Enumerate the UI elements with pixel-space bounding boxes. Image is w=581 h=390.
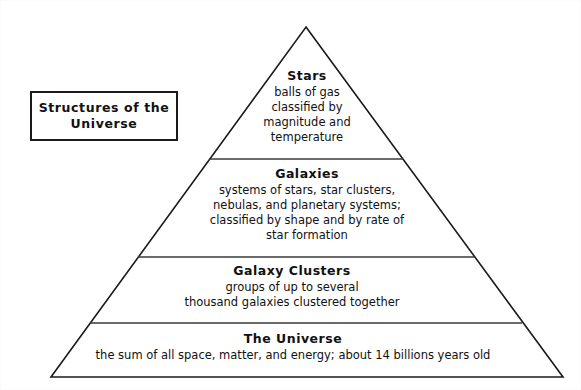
level-body-galaxy-clusters: groups of up to several thousand galaxie… [121, 280, 463, 311]
diagram-page: Structures of the Universe Stars balls o… [0, 0, 581, 390]
pyramid-level-galaxies: Galaxies systems of stars, star clusters… [161, 166, 453, 244]
title-box-label: Structures of the Universe [32, 100, 176, 131]
title-box: Structures of the Universe [30, 91, 178, 141]
pyramid-level-galaxy-clusters: Galaxy Clusters groups of up to several … [121, 263, 463, 310]
level-body-stars: balls of gas classified by magnitude and… [229, 85, 385, 146]
pyramid-level-stars: Stars balls of gas classified by magnitu… [229, 68, 385, 145]
level-heading-galaxy-clusters: Galaxy Clusters [121, 263, 463, 280]
level-heading-galaxies: Galaxies [161, 166, 453, 183]
level-heading-stars: Stars [229, 68, 385, 85]
pyramid-level-the-universe: The Universe the sum of all space, matte… [53, 331, 533, 363]
level-heading-the-universe: The Universe [53, 331, 533, 348]
level-body-galaxies: systems of stars, star clusters, nebulas… [161, 183, 453, 244]
level-body-the-universe: the sum of all space, matter, and energy… [53, 348, 533, 364]
